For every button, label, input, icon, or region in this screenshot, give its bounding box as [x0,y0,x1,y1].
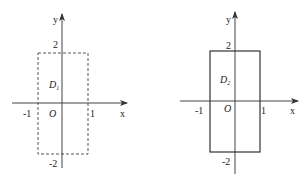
tick-label-x-neg: -1 [23,108,31,119]
right-diagram: y x 2 -2 -1 1 O D2 [180,12,298,174]
diagram-canvas: y x 2 -2 -1 1 O D1 y x 2 -2 -1 1 O D2 [0,0,305,182]
tick-label-x-pos: 1 [90,108,95,119]
y-axis-label: y [53,14,58,25]
tick-label-y-neg: -2 [49,158,57,169]
tick-label-x-neg: -1 [195,105,203,116]
region-label-d2: D2 [219,74,230,86]
y-axis-label: y [226,14,231,25]
x-axis-label: x [290,105,295,116]
tick-label-y-neg: -2 [222,156,230,167]
left-diagram: y x 2 -2 -1 1 O D1 [12,14,127,169]
tick-label-x-pos: 1 [261,105,266,116]
x-axis-label: x [120,108,125,119]
origin-label: O [49,108,56,119]
origin-label: O [224,103,231,114]
tick-label-y-pos: 2 [53,39,58,50]
region-label-d1: D1 [48,79,59,91]
tick-label-y-pos: 2 [226,40,231,51]
